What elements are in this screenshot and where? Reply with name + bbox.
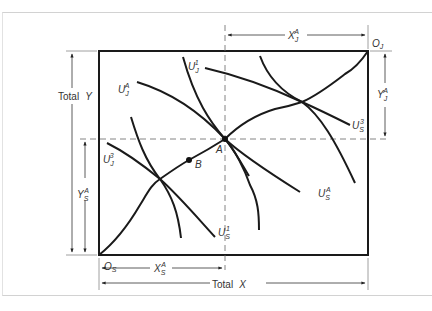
point-a-label: A — [215, 144, 223, 155]
xsa-label: XSA — [153, 261, 166, 276]
xja-label: XJA — [287, 28, 299, 43]
ysa-label: YSA — [77, 187, 89, 202]
usa-label: USA — [318, 186, 331, 201]
edgeworth-box — [99, 51, 368, 255]
dimension-arrows — [72, 35, 385, 283]
point-a — [222, 136, 228, 142]
indifference-curve-uj-upper — [205, 68, 350, 125]
point-b — [186, 157, 192, 163]
yja-label: YJA — [377, 87, 388, 102]
uj3-label: UJ3 — [103, 152, 114, 167]
origin-j-label: OJ — [372, 38, 384, 50]
us1-label: US1 — [218, 225, 230, 240]
origin-s-label: OS — [104, 261, 117, 273]
us3-label: US3 — [352, 118, 364, 133]
indifference-curve-uja — [137, 82, 300, 192]
uja-label: UJA — [118, 82, 130, 97]
indifference-curve-us1 — [131, 117, 181, 238]
indifference-curve-uj3 — [107, 143, 215, 237]
uj1-label: UJ1 — [188, 59, 199, 74]
total-y-label: TotalY — [58, 91, 93, 102]
point-b-label: B — [195, 159, 202, 170]
contract-curve — [99, 51, 368, 255]
total-x-label: TotalX — [212, 279, 246, 290]
